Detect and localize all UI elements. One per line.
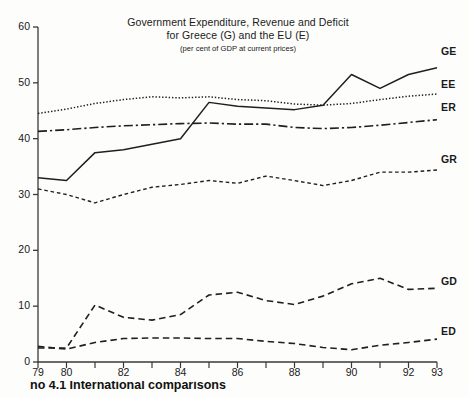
x-axis-tick-82: 82 bbox=[111, 366, 137, 378]
series-label-er: ER bbox=[441, 101, 456, 113]
x-axis-tick-90: 90 bbox=[339, 366, 365, 378]
series-line-gr bbox=[38, 170, 437, 203]
series-label-ee: EE bbox=[441, 78, 455, 90]
figure-caption-text: no 4.1 International comparisons bbox=[30, 381, 226, 392]
series-line-ge bbox=[38, 68, 437, 181]
series-line-ed bbox=[38, 338, 437, 350]
y-axis-tick-20: 20 bbox=[4, 243, 30, 255]
y-axis-tick-60: 60 bbox=[4, 20, 30, 32]
y-axis-tick-10: 10 bbox=[4, 299, 30, 311]
chart-container: Government Expenditure, Revenue and Defi… bbox=[0, 0, 469, 397]
x-axis-tick-93: 93 bbox=[424, 366, 450, 378]
x-axis-tick-80: 80 bbox=[54, 366, 80, 378]
figure-caption: no 4.1 International comparisons bbox=[30, 381, 450, 397]
y-axis-tick-40: 40 bbox=[4, 132, 30, 144]
series-line-ee bbox=[38, 94, 437, 114]
series-line-er bbox=[38, 120, 437, 132]
x-axis-tick-84: 84 bbox=[168, 366, 194, 378]
x-axis-tick-86: 86 bbox=[225, 366, 251, 378]
x-axis-tick-88: 88 bbox=[282, 366, 308, 378]
series-label-gd: GD bbox=[441, 275, 457, 287]
x-axis-tick-79: 79 bbox=[25, 366, 51, 378]
y-axis-tick-30: 30 bbox=[4, 188, 30, 200]
y-axis-tick-50: 50 bbox=[4, 76, 30, 88]
series-label-ge: GE bbox=[441, 45, 457, 57]
series-line-gd bbox=[38, 278, 437, 348]
series-label-ed: ED bbox=[441, 325, 456, 337]
series-label-gr: GR bbox=[441, 153, 457, 165]
plot-area bbox=[0, 0, 469, 397]
x-axis-tick-92: 92 bbox=[396, 366, 422, 378]
